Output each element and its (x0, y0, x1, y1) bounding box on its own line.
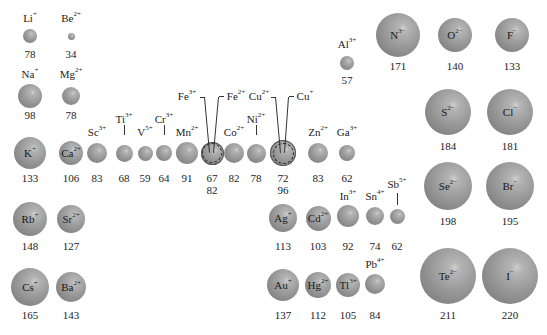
element-symbol: Br (503, 180, 514, 192)
inner-ion-dashed-outline (202, 143, 222, 163)
ion-symbol: Te2− (439, 270, 457, 282)
ionic-radius-value: 78 (251, 172, 262, 184)
ion-symbol: I− (506, 270, 514, 282)
element-symbol: Cd (308, 212, 321, 224)
ionic-radius-value: 198 (440, 215, 457, 227)
ionic-radius-value: 74 (370, 240, 381, 252)
ion-symbol: Cd2+ (308, 212, 328, 224)
charge: 2+ (238, 88, 245, 96)
charge: 3− (398, 27, 405, 35)
ion-symbol: Tl3+ (339, 279, 356, 291)
element-symbol: Sb (387, 178, 399, 190)
ionic-radius-value: 148 (22, 240, 39, 252)
ion-sphere: Ca2+ (59, 141, 83, 165)
ionic-radius-value: 82 (229, 172, 240, 184)
charge: 2− (455, 27, 462, 35)
ion-sphere (156, 145, 172, 161)
charge: 2+ (258, 111, 265, 119)
ion-symbol: Mn2+ (176, 126, 199, 138)
ionic-radius-value: 57 (342, 74, 353, 86)
ionic-radius-value: 184 (440, 140, 457, 152)
ionic-radius-value: 140 (447, 60, 464, 72)
ion-sphere: K+ (14, 137, 46, 169)
ionic-radius-value: 91 (182, 172, 193, 184)
ion-symbol: Au+ (274, 279, 291, 291)
ion-sphere (62, 87, 80, 105)
element-symbol: Ti (116, 113, 125, 125)
ionic-radius-value: 62 (392, 240, 403, 252)
ion-sphere (87, 143, 107, 163)
ion-symbol: Zn2+ (308, 126, 328, 138)
ionic-radius-value: 96 (278, 184, 289, 196)
ionic-radius-value: 171 (390, 60, 407, 72)
leader-line (124, 125, 125, 135)
ion-sphere (366, 207, 384, 225)
ion-sphere (68, 33, 75, 40)
ionic-radius-value: 220 (502, 309, 519, 321)
ion-sphere (340, 56, 354, 70)
ion-sphere (138, 146, 153, 161)
ion-sphere (390, 209, 405, 224)
ion-sphere: Au+ (267, 269, 299, 301)
ion-sphere (308, 143, 328, 163)
element-symbol: K (24, 147, 32, 159)
ionic-radius-value: 92 (343, 240, 354, 252)
ion-sphere: Sr2+ (57, 205, 85, 233)
charge: 2+ (191, 124, 198, 132)
charge: − (513, 104, 517, 112)
ion-symbol: Na+ (22, 68, 39, 80)
ion-symbol: O2− (447, 29, 462, 41)
ionic-radius-value: 133 (22, 172, 39, 184)
ionic-radius-value: 98 (25, 109, 36, 121)
ionic-radius-value: 83 (92, 172, 103, 184)
element-symbol: Li (23, 12, 33, 24)
ion-symbol: Sb5+ (387, 178, 406, 190)
element-symbol: Cs (22, 281, 34, 293)
ionic-radius-value: 84 (370, 309, 381, 321)
leader-line (397, 193, 398, 205)
ion-sphere: I− (482, 248, 538, 304)
ion-sphere (365, 274, 385, 294)
ion-symbol: Cl− (503, 106, 517, 118)
ionic-radius-value: 133 (504, 60, 521, 72)
element-symbol: Mn (176, 126, 191, 138)
ion-sphere: Ag+ (269, 204, 297, 232)
ionic-radius-value: 211 (440, 309, 456, 321)
ion-symbol: Li+ (23, 12, 37, 24)
element-symbol: In (340, 190, 349, 202)
charge: 2− (450, 178, 457, 186)
charge: − (510, 268, 514, 276)
ion-symbol: Ca2+ (61, 147, 81, 159)
ionic-radius-value: 59 (140, 172, 151, 184)
element-symbol: Mg (60, 68, 75, 80)
ion-sphere (224, 143, 244, 163)
element-symbol: Fe (178, 90, 189, 102)
charge: + (34, 66, 38, 74)
ionic-radius-value: 105 (340, 309, 357, 321)
ion-sphere: N3− (376, 13, 420, 57)
leader-line (256, 125, 257, 135)
element-symbol: Sn (365, 190, 377, 202)
charge: 3+ (125, 111, 132, 119)
ionic-radius-value: 83 (313, 172, 324, 184)
charge: 5+ (399, 176, 406, 184)
ion-symbol: K+ (24, 147, 36, 159)
element-symbol: Cr (155, 113, 166, 125)
charge: 2+ (73, 145, 80, 153)
element-symbol: Cu (249, 90, 262, 102)
charge: 2+ (73, 279, 80, 287)
element-symbol: Sc (88, 126, 99, 138)
leader-fe2 (219, 96, 224, 97)
ionic-radius-value: 68 (119, 172, 130, 184)
charge: 4+ (377, 256, 384, 264)
charge: 3+ (166, 111, 173, 119)
charge: 3+ (350, 124, 357, 132)
charge: 2+ (75, 66, 82, 74)
ion-symbol: Ba2+ (61, 281, 81, 293)
charge: 2− (447, 104, 454, 112)
ionic-radius-value: 137 (275, 309, 292, 321)
ion-symbol: Se2− (439, 180, 457, 192)
ion-sphere: Hg2+ (305, 272, 331, 298)
element-symbol: Tl (339, 279, 349, 291)
charge: 3+ (99, 124, 106, 132)
